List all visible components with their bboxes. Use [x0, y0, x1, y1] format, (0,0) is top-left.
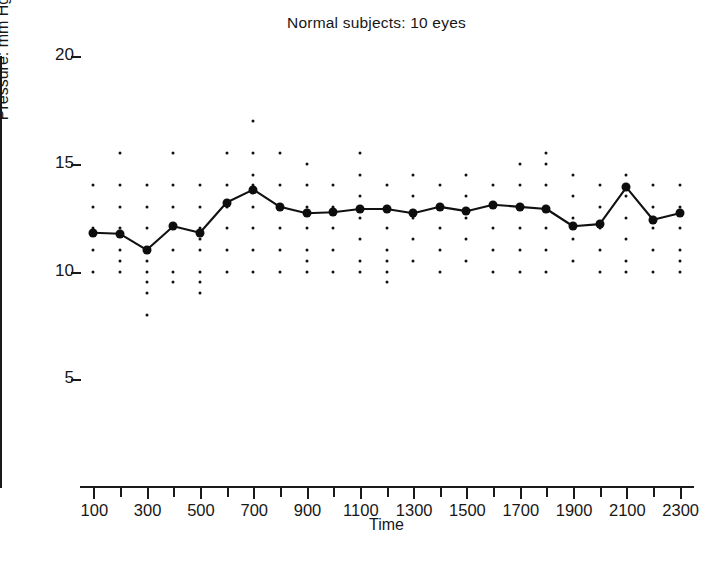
scatter-dot [545, 227, 548, 230]
scatter-dot [332, 270, 335, 273]
scatter-dot [625, 238, 628, 241]
mean-marker [675, 209, 684, 218]
scatter-dot [412, 195, 415, 198]
scatter-dot [652, 248, 655, 251]
mean-marker [435, 202, 444, 211]
x-tick-1700 [520, 488, 522, 499]
mean-marker [115, 229, 124, 238]
scatter-dot [492, 227, 495, 230]
scatter-dot [252, 119, 255, 122]
x-tick-2300 [680, 488, 682, 499]
scatter-dot [545, 184, 548, 187]
scatter-dot [492, 184, 495, 187]
scatter-dot [198, 292, 201, 295]
scatter-dot [172, 270, 175, 273]
scatter-dot [252, 173, 255, 176]
x-tick-1500 [466, 488, 468, 499]
scatter-dot [225, 184, 228, 187]
x-tick-label-900: 900 [294, 501, 322, 520]
x-tick-label-1500: 1500 [449, 501, 486, 520]
scatter-dot [598, 248, 601, 251]
mean-marker [462, 207, 471, 216]
x-tick-400 [173, 488, 175, 497]
scatter-dot [172, 248, 175, 251]
scatter-dot [545, 248, 548, 251]
scatter-dot [198, 270, 201, 273]
scatter-dot [358, 270, 361, 273]
scatter-dot [145, 184, 148, 187]
mean-marker [329, 208, 338, 217]
scatter-dot [625, 216, 628, 219]
mean-marker [355, 205, 364, 214]
scatter-dot [172, 151, 175, 154]
x-tick-900 [307, 488, 309, 499]
scatter-dot [198, 281, 201, 284]
x-tick-1000 [333, 488, 335, 497]
x-tick-1300 [413, 488, 415, 499]
scatter-dot [92, 205, 95, 208]
scatter-dot [225, 270, 228, 273]
scatter-dot [145, 227, 148, 230]
scatter-dot [625, 270, 628, 273]
scatter-dot [305, 248, 308, 251]
scatter-dot [412, 259, 415, 262]
x-tick-1800 [546, 488, 548, 497]
scatter-dot [278, 184, 281, 187]
x-tick-label-100: 100 [81, 501, 109, 520]
scatter-dot [678, 184, 681, 187]
scatter-dot [278, 248, 281, 251]
scatter-dot [145, 270, 148, 273]
scatter-dot [385, 227, 388, 230]
scatter-dot [412, 238, 415, 241]
scatter-dot [198, 238, 201, 241]
mean-marker [195, 228, 204, 237]
scatter-dot [252, 270, 255, 273]
x-tick-label-300: 300 [134, 501, 162, 520]
scatter-dot [145, 259, 148, 262]
mean-marker [515, 202, 524, 211]
scatter-dot [92, 248, 95, 251]
scatter-dot [225, 151, 228, 154]
mean-marker [249, 185, 258, 194]
x-axis-ticks: 1003005007009001100130015001700190021002… [80, 488, 694, 528]
scatter-dot [385, 281, 388, 284]
mean-marker [542, 205, 551, 214]
y-tick-label: 5 [65, 368, 74, 388]
scatter-dot [465, 216, 468, 219]
x-tick-1100 [360, 488, 362, 499]
scatter-dot [145, 281, 148, 284]
mean-marker [275, 202, 284, 211]
scatter-dot [385, 270, 388, 273]
scatter-dot [678, 259, 681, 262]
scatter-dot [625, 195, 628, 198]
scatter-dot [358, 195, 361, 198]
scatter-dot [518, 227, 521, 230]
scatter-dot [545, 270, 548, 273]
mean-marker [489, 200, 498, 209]
scatter-dot [172, 184, 175, 187]
x-tick-label-700: 700 [240, 501, 268, 520]
x-tick-2000 [600, 488, 602, 497]
scatter-dot [278, 270, 281, 273]
scatter-dot [252, 151, 255, 154]
scatter-dot [118, 259, 121, 262]
x-tick-2100 [626, 488, 628, 499]
x-tick-700 [253, 488, 255, 499]
scatter-dot [572, 238, 575, 241]
x-tick-800 [280, 488, 282, 497]
mean-marker [649, 215, 658, 224]
scatter-dot [678, 227, 681, 230]
scatter-dot [358, 216, 361, 219]
chart-title: Normal subjects: 10 eyes [0, 14, 713, 32]
scatter-dot [358, 259, 361, 262]
x-tick-label-500: 500 [187, 501, 215, 520]
scatter-dot [225, 248, 228, 251]
x-tick-600 [227, 488, 229, 497]
scatter-dot [652, 184, 655, 187]
x-tick-200 [120, 488, 122, 497]
mean-marker [89, 228, 98, 237]
x-tick-300 [147, 488, 149, 499]
scatter-dot [652, 227, 655, 230]
scatter-dot [172, 281, 175, 284]
scatter-dot [332, 248, 335, 251]
